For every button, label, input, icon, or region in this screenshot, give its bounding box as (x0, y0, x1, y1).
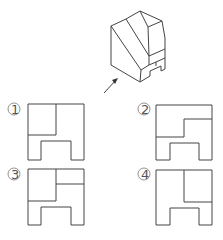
option-2[interactable]: 2 (138, 102, 212, 160)
view-direction-arrow-icon (104, 78, 118, 93)
option-4[interactable]: 4 (138, 167, 212, 225)
option-2-label: 2 (141, 102, 149, 117)
option-1-label: 1 (11, 102, 19, 117)
option-1[interactable]: 1 (8, 102, 84, 160)
option-3[interactable]: 3 (8, 167, 84, 225)
diagram-canvas: 1 2 3 4 (0, 0, 223, 240)
option-4-label: 4 (141, 167, 149, 182)
option-3-label: 3 (11, 167, 19, 182)
isometric-object (111, 11, 165, 82)
